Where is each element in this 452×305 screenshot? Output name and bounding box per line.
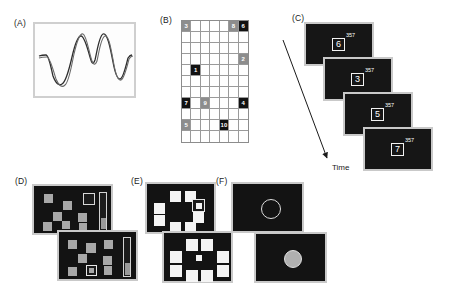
- grid-cell[interactable]: [239, 120, 248, 131]
- panel-c-superscript-1: 357: [346, 33, 355, 39]
- grid-cell[interactable]: [182, 87, 191, 98]
- grid-token[interactable]: 10: [220, 120, 228, 130]
- grid-cell[interactable]: 7: [182, 98, 191, 109]
- grid-cell[interactable]: [191, 43, 200, 54]
- grid-cell[interactable]: [182, 32, 191, 43]
- grid-cell[interactable]: [182, 54, 191, 65]
- grid-cell[interactable]: [191, 87, 200, 98]
- stimulus-square: [78, 213, 87, 222]
- grid-cell[interactable]: [201, 43, 210, 54]
- grid-cell[interactable]: 3: [182, 21, 191, 32]
- grid-cell[interactable]: [220, 43, 229, 54]
- grid-cell[interactable]: [210, 32, 219, 43]
- grid-cell[interactable]: 4: [239, 98, 248, 109]
- panel-f-screen-lower[interactable]: [254, 232, 327, 283]
- grid-cell[interactable]: 10: [220, 120, 229, 131]
- grid-cell[interactable]: [210, 109, 219, 120]
- grid-cell[interactable]: [191, 32, 200, 43]
- panel-d-screen-upper[interactable]: [32, 184, 113, 235]
- grid-cell[interactable]: [239, 32, 248, 43]
- grid-cell[interactable]: [229, 120, 238, 131]
- grid-cell[interactable]: [220, 131, 229, 142]
- grid-cell[interactable]: [182, 43, 191, 54]
- grid-cell[interactable]: 2: [239, 54, 248, 65]
- grid-cell[interactable]: [229, 65, 238, 76]
- stimulus-square: [86, 243, 96, 253]
- grid-cell[interactable]: 8: [229, 21, 238, 32]
- grid-token[interactable]: 8: [229, 21, 237, 31]
- panel-c-screen-4[interactable]: 7 357: [363, 127, 433, 171]
- grid-cell[interactable]: [229, 87, 238, 98]
- grid-cell[interactable]: [220, 65, 229, 76]
- panel-d-screen-lower[interactable]: [57, 230, 138, 281]
- grid-cell[interactable]: 9: [201, 98, 210, 109]
- grid-token[interactable]: 5: [182, 120, 190, 130]
- grid-cell[interactable]: [201, 131, 210, 142]
- grid-token[interactable]: 6: [239, 21, 248, 31]
- grid-cell[interactable]: [229, 98, 238, 109]
- grid-cell[interactable]: [229, 76, 238, 87]
- grid-cell[interactable]: [210, 120, 219, 131]
- grid-cell[interactable]: [229, 131, 238, 142]
- grid-cell[interactable]: [210, 21, 219, 32]
- grid-cell[interactable]: [210, 131, 219, 142]
- grid-cell[interactable]: [239, 65, 248, 76]
- grid-cell[interactable]: [191, 109, 200, 120]
- grid-cell[interactable]: [210, 98, 219, 109]
- grid-cell[interactable]: [201, 76, 210, 87]
- grid-cell[interactable]: 5: [182, 120, 191, 131]
- grid-cell[interactable]: [239, 109, 248, 120]
- panel-f-screen-upper[interactable]: [231, 182, 304, 233]
- grid-cell[interactable]: [229, 32, 238, 43]
- grid-cell[interactable]: [191, 76, 200, 87]
- grid-token[interactable]: 7: [182, 98, 190, 108]
- grid-cell[interactable]: [191, 21, 200, 32]
- panel-e-screen-upper[interactable]: [145, 182, 216, 234]
- grid-cell[interactable]: [220, 21, 229, 32]
- grid-cell[interactable]: [220, 54, 229, 65]
- grid-cell[interactable]: [201, 109, 210, 120]
- grid-cell[interactable]: [191, 54, 200, 65]
- grid-cell[interactable]: [239, 87, 248, 98]
- grid-cell[interactable]: [220, 98, 229, 109]
- panel-b-grid[interactable]: 38621794510: [181, 20, 249, 143]
- grid-cell[interactable]: [220, 32, 229, 43]
- grid-cell[interactable]: 6: [239, 21, 248, 32]
- grid-token[interactable]: 2: [239, 54, 248, 64]
- grid-cell[interactable]: [239, 43, 248, 54]
- stimulus-square: [217, 251, 229, 263]
- grid-cell[interactable]: [229, 43, 238, 54]
- grid-cell[interactable]: [191, 131, 200, 142]
- grid-token[interactable]: 3: [182, 21, 190, 31]
- grid-cell[interactable]: [229, 54, 238, 65]
- grid-cell[interactable]: [220, 76, 229, 87]
- grid-token[interactable]: 4: [239, 98, 248, 108]
- grid-cell[interactable]: [182, 109, 191, 120]
- grid-cell[interactable]: [229, 109, 238, 120]
- grid-cell[interactable]: [210, 65, 219, 76]
- grid-cell[interactable]: [239, 131, 248, 142]
- grid-cell[interactable]: 1: [191, 65, 200, 76]
- grid-cell[interactable]: [220, 109, 229, 120]
- grid-cell[interactable]: [210, 43, 219, 54]
- grid-cell[interactable]: [201, 54, 210, 65]
- grid-cell[interactable]: [201, 21, 210, 32]
- grid-cell[interactable]: [201, 32, 210, 43]
- grid-cell[interactable]: [210, 76, 219, 87]
- grid-cell[interactable]: [210, 87, 219, 98]
- grid-cell[interactable]: [201, 87, 210, 98]
- grid-cell[interactable]: [191, 120, 200, 131]
- grid-cell[interactable]: [201, 120, 210, 131]
- grid-cell[interactable]: [182, 131, 191, 142]
- grid-cell[interactable]: [239, 76, 248, 87]
- grid-cell[interactable]: [182, 76, 191, 87]
- grid-token[interactable]: 9: [201, 98, 209, 108]
- grid-cell[interactable]: [201, 65, 210, 76]
- stimulus-square: [104, 266, 112, 275]
- grid-cell[interactable]: [220, 87, 229, 98]
- panel-e-screen-lower[interactable]: [162, 231, 233, 283]
- grid-cell[interactable]: [191, 98, 200, 109]
- grid-cell[interactable]: [210, 54, 219, 65]
- grid-cell[interactable]: [182, 65, 191, 76]
- grid-token[interactable]: 1: [191, 65, 199, 75]
